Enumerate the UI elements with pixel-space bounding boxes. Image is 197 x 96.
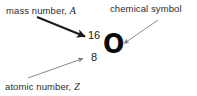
mass-number-label: mass number, A [6,6,76,17]
chemical-symbol-label: chemical symbol [110,4,182,14]
mass-number-value: 16 [88,30,100,41]
atomic-number-label: atomic number, Z [5,82,80,93]
atomic-number-arrow [28,59,83,79]
isotope-notation: 16 8 O [88,28,134,70]
isotope-notation-figure: mass number, A chemical symbol atomic nu… [0,0,197,96]
mass-number-arrow [37,17,85,37]
mass-number-variable: A [70,5,77,16]
element-symbol: O [103,30,124,57]
atomic-number-value: 8 [91,52,97,63]
mass-number-label-text: mass number, [6,5,70,16]
atomic-number-label-text: atomic number, [5,81,74,92]
atomic-number-variable: Z [74,81,80,92]
